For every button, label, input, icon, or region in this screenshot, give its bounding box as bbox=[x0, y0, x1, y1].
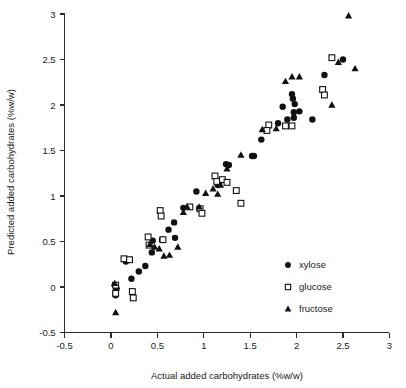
point-square bbox=[264, 128, 270, 134]
legend-item-xylose: xylose bbox=[285, 259, 326, 270]
point-square bbox=[283, 123, 289, 129]
x-tick-label: 2.5 bbox=[336, 340, 349, 351]
legend-marker-circle bbox=[285, 262, 291, 268]
y-tick-label: 0.5 bbox=[42, 236, 55, 247]
point-triangle bbox=[328, 101, 335, 107]
point-square bbox=[145, 234, 151, 240]
legend-item-glucose: glucose bbox=[285, 281, 331, 292]
y-tick-label: 3 bbox=[50, 9, 55, 20]
point-circle bbox=[171, 219, 177, 225]
x-axis-label: Actual added carbohydrates (%w/w) bbox=[151, 370, 303, 381]
legend-item-fructose: fructose bbox=[285, 303, 333, 314]
x-tick-label: 0.5 bbox=[151, 340, 164, 351]
point-triangle bbox=[214, 190, 221, 196]
point-square bbox=[289, 123, 295, 129]
point-triangle bbox=[296, 73, 303, 79]
point-square bbox=[329, 55, 335, 61]
point-square bbox=[130, 295, 136, 301]
x-tick-label: 1 bbox=[201, 340, 206, 351]
x-tick-label: 3 bbox=[387, 340, 392, 351]
legend-marker-triangle bbox=[285, 306, 292, 312]
y-axis-ticks: -0.500.511.522.53 bbox=[39, 9, 64, 339]
point-triangle bbox=[112, 309, 119, 315]
point-circle bbox=[309, 116, 315, 122]
point-square bbox=[322, 92, 328, 98]
point-circle bbox=[275, 120, 281, 126]
y-tick-label: 2 bbox=[50, 100, 55, 111]
point-triangle bbox=[202, 190, 209, 196]
legend-label-glucose: glucose bbox=[299, 281, 332, 292]
point-square bbox=[160, 237, 166, 243]
point-circle bbox=[340, 56, 346, 62]
point-circle bbox=[193, 188, 199, 194]
plot-canvas: -0.500.511.522.53 -0.500.511.522.53 xylo… bbox=[0, 0, 406, 388]
y-tick-label: 0 bbox=[50, 282, 55, 293]
point-circle bbox=[172, 235, 178, 241]
point-circle bbox=[251, 153, 257, 159]
data-points bbox=[111, 12, 359, 315]
y-tick-label: 1.5 bbox=[42, 145, 55, 156]
legend: xyloseglucosefructose bbox=[285, 259, 333, 314]
y-axis-label: Predicted added carbohydrates (%w/w) bbox=[5, 89, 16, 255]
legend-label-fructose: fructose bbox=[299, 303, 333, 314]
point-square bbox=[113, 290, 119, 296]
point-circle bbox=[136, 268, 142, 274]
point-triangle bbox=[345, 12, 352, 18]
point-triangle bbox=[174, 243, 181, 249]
series-fructose bbox=[111, 12, 359, 315]
point-circle bbox=[258, 136, 264, 142]
point-circle bbox=[279, 104, 285, 110]
x-tick-label: 2 bbox=[294, 340, 299, 351]
point-square bbox=[121, 256, 127, 262]
point-circle bbox=[296, 108, 302, 114]
point-square bbox=[233, 188, 239, 194]
point-circle bbox=[292, 101, 298, 107]
point-square bbox=[127, 257, 133, 263]
point-circle bbox=[291, 115, 297, 121]
point-square bbox=[224, 179, 230, 185]
point-triangle bbox=[288, 73, 295, 79]
y-tick-label: 2.5 bbox=[42, 54, 55, 65]
point-circle bbox=[290, 95, 296, 101]
point-square bbox=[238, 200, 244, 206]
point-circle bbox=[284, 116, 290, 122]
legend-label-xylose: xylose bbox=[299, 259, 326, 270]
point-circle bbox=[321, 72, 327, 78]
y-tick-label: 1 bbox=[50, 191, 55, 202]
point-circle bbox=[128, 276, 134, 282]
point-circle bbox=[149, 249, 155, 255]
x-tick-label: 0 bbox=[108, 340, 113, 351]
point-square bbox=[199, 210, 205, 216]
point-triangle bbox=[351, 65, 358, 71]
legend-marker-square bbox=[285, 284, 290, 289]
point-square bbox=[214, 179, 220, 185]
x-tick-label: 1.5 bbox=[244, 340, 257, 351]
point-square bbox=[129, 289, 135, 295]
point-triangle bbox=[237, 151, 244, 157]
point-triangle bbox=[166, 251, 173, 257]
point-triangle bbox=[282, 78, 289, 84]
x-tick-label: -0.5 bbox=[56, 340, 72, 351]
point-circle bbox=[142, 263, 148, 269]
point-circle bbox=[165, 226, 171, 232]
y-tick-label: -0.5 bbox=[39, 327, 55, 338]
scatter-plot-figure: -0.500.511.522.53 -0.500.511.522.53 xylo… bbox=[0, 0, 406, 388]
point-square bbox=[158, 213, 164, 219]
x-axis-ticks: -0.500.511.522.53 bbox=[56, 333, 392, 351]
point-circle bbox=[291, 109, 297, 115]
